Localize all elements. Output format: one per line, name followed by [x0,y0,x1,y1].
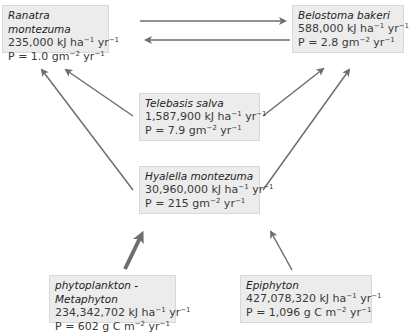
energy-value: 234,342,702 kJ ha−1 yr−1 [55,306,171,320]
arrow-hyalella-to-ranatra [42,70,133,190]
energy-value: 588,000 kJ ha−1 yr−1 [298,22,399,36]
production-value: P = 602 g C m−2 yr−1 [55,320,171,332]
node-belostoma-bakeri: Belostoma bakeri 588,000 kJ ha−1 yr−1 P … [292,5,404,53]
energy-value: 1,587,900 kJ ha−1 yr−1 [145,110,255,124]
node-telebasis-salva: Telebasis salva 1,587,900 kJ ha−1 yr−1 P… [139,93,260,141]
energy-value: 235,000 kJ ha−1 yr−1 [8,36,104,50]
arrow-phyto-to-hyalella [125,238,140,269]
species-name: Belostoma bakeri [298,8,399,22]
arrow-telebasis-to-ranatra [66,70,133,116]
node-hyalella-montezuma: Hyalella montezuma 30,960,000 kJ ha−1 yr… [139,166,260,214]
species-name: Ranatra montezuma [8,8,104,36]
species-name: Epiphyton [246,278,367,292]
arrow-telebasis-to-belostoma [263,69,323,116]
production-value: P = 1.0 gm−2 yr−1 [8,50,104,64]
node-phytoplankton-metaphyton: phytoplankton - Metaphyton 234,342,702 k… [49,275,176,323]
production-value: P = 2.8 gm−2 yr−1 [298,36,399,50]
arrow-hyalella-to-belostoma [263,70,349,190]
production-value: P = 7.9 gm−2 yr−1 [145,124,255,138]
species-name: Hyalella montezuma [145,169,255,183]
node-ranatra-montezuma: Ranatra montezuma 235,000 kJ ha−1 yr−1 P… [2,5,109,53]
species-name: Telebasis salva [145,96,255,110]
arrow-epiphyton-to-hyalella [271,232,292,270]
energy-value: 427,078,320 kJ ha−1 yr−1 [246,292,367,306]
production-value: P = 215 gm−2 yr−1 [145,197,255,211]
node-epiphyton: Epiphyton 427,078,320 kJ ha−1 yr−1 P = 1… [240,275,372,323]
production-value: P = 1,096 g C m−2 yr−1 [246,306,367,320]
species-name: phytoplankton - Metaphyton [55,278,171,306]
energy-value: 30,960,000 kJ ha−1 yr−1 [145,183,255,197]
